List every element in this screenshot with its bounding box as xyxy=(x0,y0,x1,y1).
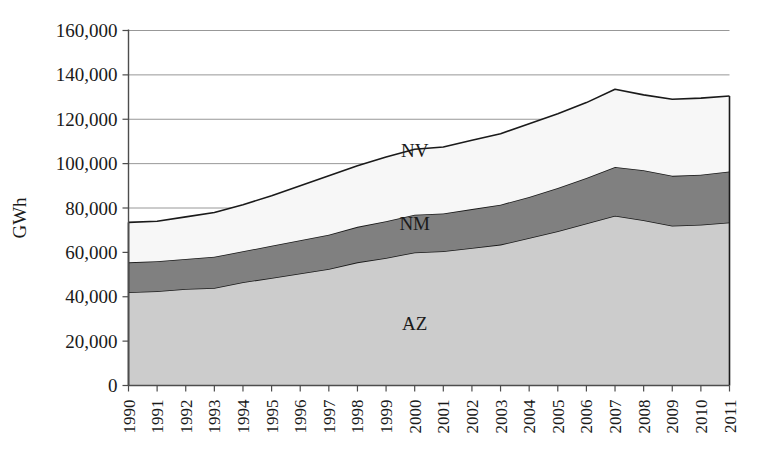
x-tick-label: 1994 xyxy=(234,399,253,434)
x-tick-label: 1992 xyxy=(177,400,196,434)
x-tick-label: 1999 xyxy=(377,400,396,434)
x-tick-label: 2009 xyxy=(663,400,682,434)
series-label-nm: NM xyxy=(399,213,430,234)
y-tick-label: 20,000 xyxy=(65,331,117,352)
x-tick-label: 2008 xyxy=(635,400,654,434)
y-tick-label: 160,000 xyxy=(56,20,118,41)
x-tick-label: 2001 xyxy=(434,400,453,434)
x-tick-label: 1995 xyxy=(263,400,282,434)
x-tick-label: 1997 xyxy=(320,399,339,434)
x-tick-label: 1990 xyxy=(120,400,139,434)
series-label-nv: NV xyxy=(401,140,429,161)
x-tick-label: 2011 xyxy=(721,400,740,433)
y-tick-label: 140,000 xyxy=(56,64,118,85)
x-tick-label: 2006 xyxy=(577,400,596,434)
x-tick-label: 2003 xyxy=(492,400,511,434)
y-tick-label: 100,000 xyxy=(56,153,118,174)
y-tick-label: 120,000 xyxy=(56,109,118,130)
y-axis-label-text: GWh xyxy=(9,197,30,239)
x-tick-label: 2000 xyxy=(406,400,425,434)
stacked-area-chart: 020,00040,00060,00080,000100,000120,0001… xyxy=(0,0,759,458)
y-tick-label: 40,000 xyxy=(65,286,117,307)
x-tick-label: 2002 xyxy=(463,400,482,434)
x-tick-label: 1996 xyxy=(291,400,310,434)
y-tick-label: 0 xyxy=(108,375,118,396)
x-tick-label: 1993 xyxy=(205,400,224,434)
y-tick-label: 60,000 xyxy=(65,242,117,263)
x-tick-label: 2007 xyxy=(606,399,625,434)
x-tick-label: 2004 xyxy=(520,399,539,434)
y-axis-label: GWh xyxy=(9,197,30,239)
series-label-az: AZ xyxy=(402,313,427,334)
x-tick-label: 1991 xyxy=(148,400,167,434)
chart-container: 020,00040,00060,00080,000100,000120,0001… xyxy=(0,0,759,458)
x-tick-label: 2010 xyxy=(692,400,711,434)
x-tick-label: 2005 xyxy=(549,400,568,434)
x-tick-label: 1998 xyxy=(348,400,367,434)
y-tick-label: 80,000 xyxy=(65,198,117,219)
